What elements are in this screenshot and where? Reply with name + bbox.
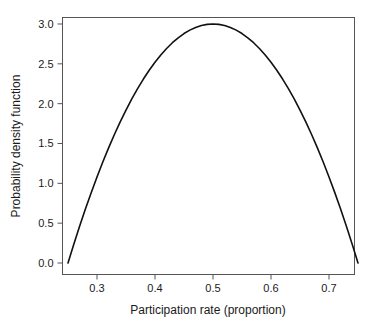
x-tick-label: 0.5: [205, 282, 220, 294]
x-tick-label: 0.4: [147, 282, 162, 294]
y-tick-label: 2.5: [38, 58, 53, 70]
plot-frame: [63, 18, 355, 275]
y-tick-label: 0.0: [38, 257, 53, 269]
x-tick-label: 0.7: [321, 282, 336, 294]
y-axis-title: Probability density function: [9, 75, 23, 218]
y-tick-label: 1.0: [38, 177, 53, 189]
density-curve: [68, 24, 358, 263]
y-tick-label: 3.0: [38, 18, 53, 30]
x-tick-label: 0.3: [89, 282, 104, 294]
density-curve-group: [68, 24, 358, 263]
y-tick-label: 1.5: [38, 137, 53, 149]
x-tick-label: 0.6: [263, 282, 278, 294]
x-axis-ticks: 0.30.40.50.60.7: [89, 275, 336, 294]
y-axis-ticks: 0.00.51.01.52.02.53.0: [38, 18, 62, 269]
x-axis-title: Participation rate (proportion): [130, 303, 285, 317]
y-tick-label: 0.5: [38, 217, 53, 229]
probability-density-chart: 0.30.40.50.60.7 0.00.51.01.52.02.53.0 Pa…: [0, 0, 372, 328]
y-tick-label: 2.0: [38, 98, 53, 110]
chart-container: 0.30.40.50.60.7 0.00.51.01.52.02.53.0 Pa…: [0, 0, 372, 328]
